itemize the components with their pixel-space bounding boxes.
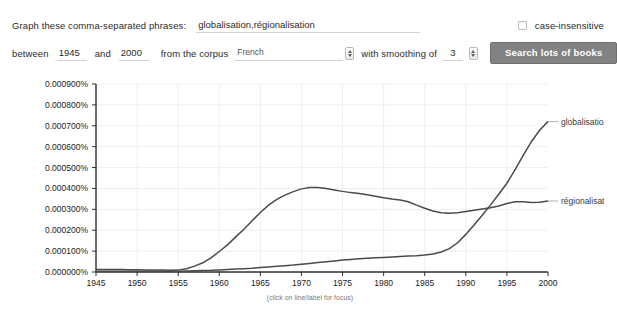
x-axis-ticks: 1945195019551960196519701975198019851990…	[87, 272, 558, 288]
series-label-globalisation[interactable]: globalisation	[561, 117, 604, 127]
chevron-down-icon	[348, 54, 352, 57]
corpus-label: from the corpus	[161, 48, 229, 59]
case-insensitive-checkbox[interactable]	[518, 21, 527, 30]
corpus-select[interactable]	[235, 45, 343, 61]
smoothing-input[interactable]	[443, 45, 463, 61]
chevron-down-icon	[471, 54, 475, 57]
chevron-up-icon	[471, 50, 475, 53]
y-tick-label: 0.000700%	[45, 121, 88, 131]
y-tick-label: 0.000400%	[45, 183, 88, 193]
smoothing-label: with smoothing of	[361, 48, 437, 59]
between-label: between	[12, 48, 49, 59]
x-tick-label: 1970	[292, 278, 311, 288]
x-tick-label: 1995	[497, 278, 516, 288]
y-tick-label: 0.000000%	[45, 267, 88, 277]
y-tick-label: 0.000300%	[45, 204, 88, 214]
corpus-stepper-icon[interactable]	[345, 47, 354, 60]
y-tick-label: 0.000900%	[45, 79, 88, 89]
grid-lines	[96, 84, 548, 272]
and-label: and	[95, 48, 111, 59]
series-labels[interactable]: globalisationrégionalisation	[548, 117, 604, 206]
chart-hint-label: (click on line/label for focus)	[267, 294, 353, 302]
x-tick-label: 1980	[374, 278, 393, 288]
x-tick-label: 1945	[87, 278, 106, 288]
start-year-input[interactable]	[57, 45, 87, 61]
x-tick-label: 1960	[210, 278, 229, 288]
data-line-régionalisation[interactable]	[96, 187, 548, 270]
chevron-up-icon	[348, 50, 352, 53]
x-tick-label: 1950	[128, 278, 147, 288]
y-tick-label: 0.000100%	[45, 246, 88, 256]
y-tick-label: 0.000500%	[45, 163, 88, 173]
phrases-input[interactable]	[196, 17, 420, 33]
case-insensitive-label: case-insensitive	[535, 20, 604, 31]
chart-svg[interactable]: 0.000900%0.000800%0.000700%0.000600%0.00…	[0, 72, 604, 327]
series-label-régionalisation[interactable]: régionalisation	[561, 196, 604, 206]
smoothing-stepper-icon[interactable]	[469, 47, 478, 60]
ngram-chart[interactable]: 0.000900%0.000800%0.000700%0.000600%0.00…	[0, 72, 604, 327]
x-tick-label: 1975	[333, 278, 352, 288]
x-tick-label: 1965	[251, 278, 270, 288]
y-tick-label: 0.000800%	[45, 100, 88, 110]
data-series[interactable]	[96, 122, 548, 272]
phrases-row: Graph these comma-separated phrases: cas…	[0, 14, 604, 36]
corpus-select-wrapper	[235, 45, 354, 61]
search-button[interactable]: Search lots of books	[490, 42, 617, 64]
x-tick-label: 1955	[169, 278, 188, 288]
options-row: between and from the corpus with smoothi…	[0, 42, 604, 64]
phrases-label: Graph these comma-separated phrases:	[12, 20, 186, 31]
x-tick-label: 1985	[415, 278, 434, 288]
x-tick-label: 1990	[456, 278, 475, 288]
x-tick-label: 2000	[539, 278, 558, 288]
y-tick-label: 0.000200%	[45, 225, 88, 235]
y-tick-label: 0.000600%	[45, 142, 88, 152]
end-year-input[interactable]	[119, 45, 149, 61]
data-line-globalisation[interactable]	[96, 122, 548, 272]
y-axis-ticks: 0.000900%0.000800%0.000700%0.000600%0.00…	[45, 79, 96, 277]
